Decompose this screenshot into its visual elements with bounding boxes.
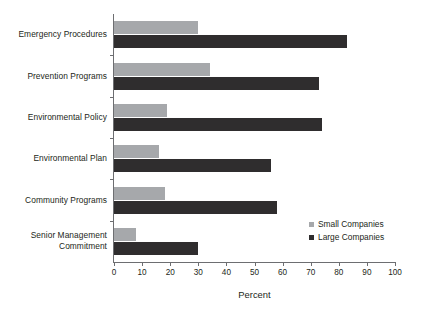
x-axis-tick-label: 30 — [194, 268, 203, 277]
x-axis-tick — [170, 262, 171, 266]
category-label-environmental-policy: Environmental Policy — [28, 112, 107, 123]
x-axis-tick — [114, 262, 115, 266]
legend-item-large-companies: Large Companies — [309, 232, 384, 242]
x-axis-tick — [311, 262, 312, 266]
category-axis-labels: Emergency ProceduresPrevention ProgramsE… — [0, 0, 113, 262]
x-axis-tick — [226, 262, 227, 266]
bar-community-programs-small-companies — [114, 187, 165, 200]
x-axis-tick-label: 20 — [166, 268, 175, 277]
x-axis-tick-label: 40 — [222, 268, 231, 277]
y-axis-tick — [110, 179, 114, 180]
bar-senior-management-commitment-large-companies — [114, 242, 198, 255]
legend-item-small-companies: Small Companies — [309, 219, 384, 229]
bar-senior-management-commitment-small-companies — [114, 228, 136, 241]
category-label-line: Senior Management — [15, 230, 107, 241]
bar-environmental-plan-small-companies — [114, 145, 159, 158]
category-label-line: Commitment — [15, 241, 107, 252]
bar-prevention-programs-large-companies — [114, 77, 319, 90]
legend-swatch-icon — [309, 222, 314, 227]
x-axis-tick-label: 60 — [278, 268, 287, 277]
bar-prevention-programs-small-companies — [114, 63, 210, 76]
x-axis-tick — [198, 262, 199, 266]
bar-environmental-plan-large-companies — [114, 159, 271, 172]
x-axis-tick-label: 10 — [138, 268, 147, 277]
category-label-line: Emergency Procedures — [18, 29, 107, 40]
x-axis-tick — [255, 262, 256, 266]
x-axis-tick-label: 0 — [112, 268, 117, 277]
chart-legend: Small CompaniesLarge Companies — [309, 219, 384, 245]
legend-swatch-icon — [309, 235, 314, 240]
category-label-line: Community Programs — [25, 195, 107, 206]
category-label-line: Prevention Programs — [27, 71, 107, 82]
bar-emergency-procedures-large-companies — [114, 35, 347, 48]
bar-emergency-procedures-small-companies — [114, 21, 198, 34]
x-axis-tick-label: 90 — [362, 268, 371, 277]
x-axis-tick-label: 70 — [306, 268, 315, 277]
x-axis-tick — [142, 262, 143, 266]
y-axis-tick — [110, 138, 114, 139]
x-axis-title: Percent — [114, 289, 395, 300]
x-axis-tick — [367, 262, 368, 266]
category-label-community-programs: Community Programs — [25, 195, 107, 206]
y-axis-tick — [110, 55, 114, 56]
y-axis-tick — [110, 97, 114, 98]
category-label-environmental-plan: Environmental Plan — [33, 153, 107, 164]
legend-label: Large Companies — [318, 232, 384, 242]
bar-community-programs-large-companies — [114, 201, 277, 214]
x-axis-tick-label: 50 — [250, 268, 259, 277]
bar-environmental-policy-large-companies — [114, 118, 322, 131]
x-axis-tick — [283, 262, 284, 266]
category-label-line: Environmental Plan — [33, 153, 107, 164]
legend-label: Small Companies — [318, 219, 384, 229]
category-label-emergency-procedures: Emergency Procedures — [18, 29, 107, 40]
y-axis-tick — [110, 221, 114, 222]
category-label-line: Environmental Policy — [28, 112, 107, 123]
x-axis-tick-label: 100 — [388, 268, 402, 277]
x-axis-tick-label: 80 — [334, 268, 343, 277]
category-label-prevention-programs: Prevention Programs — [27, 71, 107, 82]
category-label-senior-management: Senior ManagementCommitment — [15, 230, 107, 252]
x-axis-tick — [339, 262, 340, 266]
x-axis-tick — [395, 262, 396, 266]
bar-environmental-policy-small-companies — [114, 104, 167, 117]
bar-chart: Emergency ProceduresPrevention ProgramsE… — [0, 0, 425, 316]
